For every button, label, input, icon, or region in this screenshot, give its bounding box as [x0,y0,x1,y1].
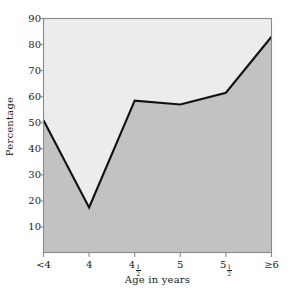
chart-figure: Percentage 102030405060708090 <444125512… [0,0,289,292]
x-tick-label: 4 [86,260,92,270]
x-tick-label: 5 [177,260,183,270]
x-axis-title: Age in years [43,274,272,285]
x-tick-label: <4 [36,260,51,270]
x-axis-tick-labels: <444125512≥6 [0,0,289,292]
x-tick-label: ≥6 [264,260,279,270]
